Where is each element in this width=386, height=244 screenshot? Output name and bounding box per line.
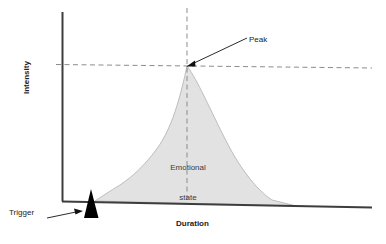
trigger-triangle-marker xyxy=(84,189,99,218)
peak-arrow-line xyxy=(192,38,247,64)
emotional-state-annotation-label: Emotional state xyxy=(160,143,216,223)
emotional-state-line-1: Emotional xyxy=(160,163,216,173)
peak-horizontal-dashed-line xyxy=(56,65,372,69)
trigger-arrow-head xyxy=(74,209,83,215)
trigger-arrow-line xyxy=(47,212,76,218)
emotional-state-curve-figure: Intensity Duration Peak Trigger Emotiona… xyxy=(0,0,386,244)
peak-arrow-head xyxy=(187,61,196,67)
trigger-annotation-label: Trigger xyxy=(9,208,34,218)
y-axis-label: Intensity xyxy=(22,61,32,94)
peak-annotation-label: Peak xyxy=(249,35,267,45)
emotional-state-line-2: state xyxy=(160,193,216,203)
